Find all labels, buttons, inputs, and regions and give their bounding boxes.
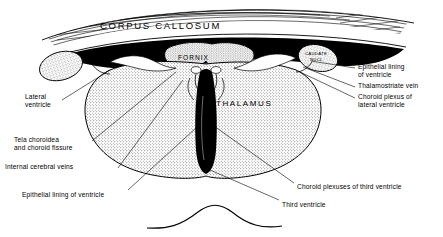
anatomical-diagram: CORPUS CALLOSUM FORNIX THALAMUS CAUDATE … — [0, 0, 443, 237]
callout-tela-choroidea-and-choroid-fissure: Tela choroideaand choroid fissure — [14, 136, 73, 152]
label-caudate-nucleus-line1: CAUDATE — [305, 51, 327, 56]
figure-canvas: CORPUS CALLOSUM FORNIX THALAMUS CAUDATE … — [0, 0, 443, 237]
bottom-wavy-curve — [147, 205, 282, 228]
callout-epithelial-lining-of-ventricle-bottom: Epithelial lining of ventricle — [22, 191, 104, 199]
callout-thalamostriate-vein: Thalamostriate vein — [358, 82, 418, 90]
callout-epithelial-lining-of-ventricle: Epithelial liningof ventricle — [358, 63, 405, 79]
label-corpus-callosum: CORPUS CALLOSUM — [100, 20, 221, 31]
callout-choroid-plexuses-of-third-ventricle: Choroid plexuses of third ventricle — [297, 183, 402, 191]
label-caudate-nucleus-line2: NUCL. — [310, 57, 324, 62]
callout-choroid-plexus-of-lateral-ventricle: Choroid plexus oflateral ventricle — [358, 93, 412, 109]
callout-internal-cerebral-veins: Internal cerebral veins — [5, 163, 73, 171]
callout-third-ventricle: Third ventricle — [282, 201, 326, 209]
third-ventricle-cavity — [195, 69, 217, 174]
callout-lateral-ventricle: Lateralventricle — [25, 93, 51, 109]
label-thalamus: THALAMUS — [216, 99, 272, 108]
label-fornix: FORNIX — [178, 54, 209, 61]
